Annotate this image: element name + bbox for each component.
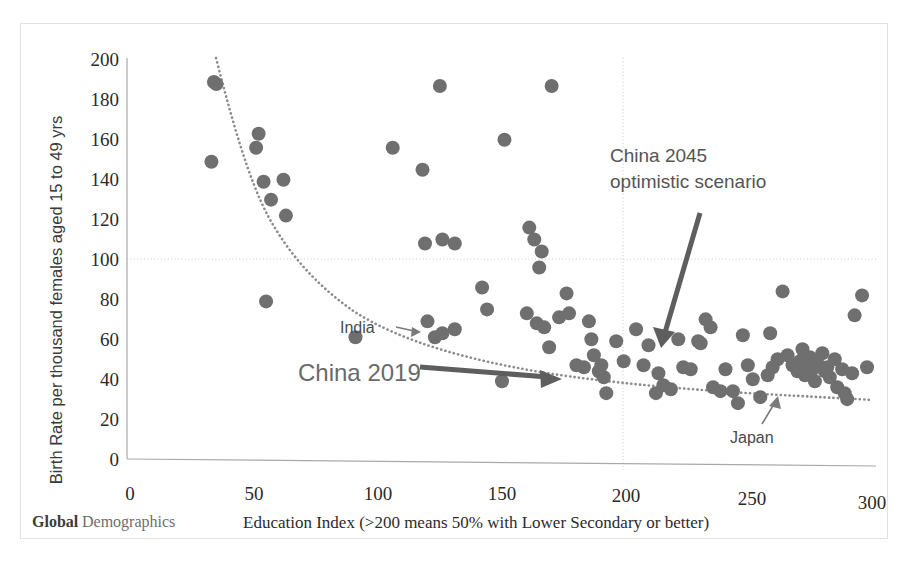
y-axis-title: Birth Rate per thousand females aged 15 …	[47, 116, 65, 485]
x-axis-line	[127, 459, 876, 466]
scatter-point	[649, 386, 663, 400]
china-2019-label: China 2019	[298, 359, 421, 386]
scatter-point	[209, 77, 223, 91]
india-arrow	[396, 327, 414, 331]
scatter-point	[642, 338, 656, 352]
scatter-point	[480, 302, 494, 316]
scatter-point	[257, 175, 271, 189]
x-tick-150: 150	[488, 483, 517, 504]
brand-watermark: Global Demographics	[32, 513, 175, 531]
india-label: India	[340, 319, 375, 336]
scatter-point	[594, 358, 608, 372]
scatter-point	[664, 382, 678, 396]
y-tick-0: 0	[110, 449, 120, 470]
scatter-point	[276, 173, 290, 187]
china-2045-arrow	[664, 213, 700, 336]
y-tick-160: 160	[91, 129, 120, 150]
scatter-point	[776, 284, 790, 298]
scatter-point	[684, 362, 698, 376]
scatter-point	[731, 396, 745, 410]
scatter-point	[542, 340, 556, 354]
scatter-point	[497, 133, 511, 147]
y-tick-20: 20	[100, 409, 119, 430]
brand-light-text: Demographics	[82, 513, 175, 531]
scatter-point	[726, 384, 740, 398]
annotation-india: India	[340, 319, 421, 337]
scatter-point	[582, 314, 596, 328]
scatter-point	[448, 237, 462, 251]
scatter-point	[537, 320, 551, 334]
scatter-point	[845, 366, 859, 380]
x-tick-labels: 0 50 100 150 200 250 300	[125, 483, 886, 513]
annotation-china-2045: China 2045 optimistic scenario	[610, 145, 766, 348]
scatter-point	[629, 322, 643, 336]
scatter-point	[204, 155, 218, 169]
x-tick-300: 300	[858, 492, 887, 513]
scatter-point	[386, 141, 400, 155]
y-tick-120: 120	[91, 209, 120, 230]
annotation-china-2019: China 2019	[298, 359, 562, 388]
scatter-point	[808, 374, 822, 388]
scatter-point	[694, 336, 708, 350]
chart-figure: 200 180 160 140 120 100 80 60 40 20 0 0 …	[0, 0, 907, 570]
scatter-point	[671, 332, 685, 346]
scatter-point	[433, 79, 447, 93]
x-tick-100: 100	[364, 483, 393, 504]
scatter-point	[562, 306, 576, 320]
y-tick-40: 40	[100, 369, 119, 390]
japan-arrowhead	[769, 396, 781, 409]
x-tick-0: 0	[125, 483, 135, 504]
x-tick-200: 200	[612, 485, 641, 506]
scatter-point	[736, 328, 750, 342]
china-2019-arrowhead	[540, 370, 562, 388]
brand-bold-text: Global	[32, 513, 79, 530]
gridlines	[127, 58, 878, 470]
scatter-point	[704, 320, 718, 334]
scatter-point	[855, 288, 869, 302]
scatter-point	[259, 294, 273, 308]
y-tick-200: 200	[91, 49, 120, 70]
scatter-point	[435, 233, 449, 247]
scatter-point	[279, 209, 293, 223]
china-2045-label-line2: optimistic scenario	[610, 171, 766, 192]
scatter-point	[416, 163, 430, 177]
x-tick-250: 250	[738, 488, 767, 509]
scatter-point	[435, 326, 449, 340]
scatter-point	[560, 286, 574, 300]
y-tick-140: 140	[91, 169, 120, 190]
scatter-point	[249, 141, 263, 155]
scatter-point	[527, 233, 541, 247]
scatter-plot: 200 180 160 140 120 100 80 60 40 20 0 0 …	[0, 0, 907, 570]
scatter-point	[609, 334, 623, 348]
scatter-point	[860, 360, 874, 374]
scatter-point	[746, 372, 760, 386]
scatter-point	[522, 221, 536, 235]
scatter-point	[520, 306, 534, 320]
japan-arrow	[762, 404, 774, 424]
scatter-point	[718, 362, 732, 376]
scatter-point	[597, 370, 611, 384]
scatter-point	[815, 346, 829, 360]
india-arrowhead	[411, 327, 421, 337]
china-2019-arrow	[420, 367, 548, 377]
china-2045-label-line1: China 2045	[610, 145, 707, 166]
scatter-point	[420, 314, 434, 328]
scatter-point	[264, 193, 278, 207]
scatter-point	[651, 366, 665, 380]
x-axis-title: Education Index (>200 means 50% with Low…	[243, 513, 709, 532]
scatter-point	[545, 79, 559, 93]
scatter-point	[763, 326, 777, 340]
scatter-point	[617, 354, 631, 368]
scatter-point	[741, 358, 755, 372]
scatter-point	[252, 127, 266, 141]
scatter-point	[535, 245, 549, 259]
japan-label: Japan	[730, 429, 774, 446]
y-tick-60: 60	[100, 329, 119, 350]
scatter-point	[532, 260, 546, 274]
y-tick-100: 100	[91, 249, 120, 270]
scatter-point	[848, 308, 862, 322]
scatter-point	[418, 237, 432, 251]
scatter-point	[577, 360, 591, 374]
scatter-point	[475, 280, 489, 294]
scatter-point	[599, 386, 613, 400]
